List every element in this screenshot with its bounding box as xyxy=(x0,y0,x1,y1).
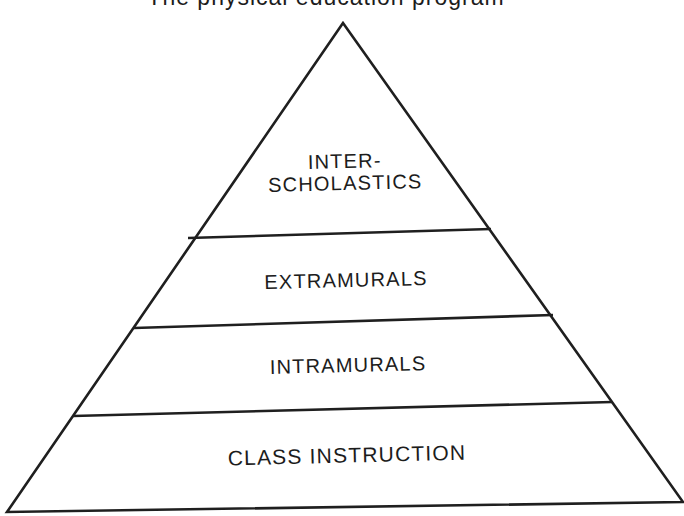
pyramid-level-label-extramurals: EXTRAMURALS xyxy=(264,267,428,293)
pyramid-level-label-intramurals: INTRAMURALS xyxy=(269,352,426,378)
level-divider-extramurals-intramurals xyxy=(134,315,553,328)
pyramid-level-label-interscholastics: INTER- SCHOLASTICS xyxy=(267,148,422,196)
figure-physical-education-pyramid: The physical education program INTER- SC… xyxy=(0,0,684,516)
level-divider-intramurals-class-instruction xyxy=(73,402,612,416)
pyramid-outline xyxy=(7,23,683,512)
pyramid-drawing xyxy=(0,0,684,516)
level-divider-interscholastics-extramurals xyxy=(188,229,491,238)
